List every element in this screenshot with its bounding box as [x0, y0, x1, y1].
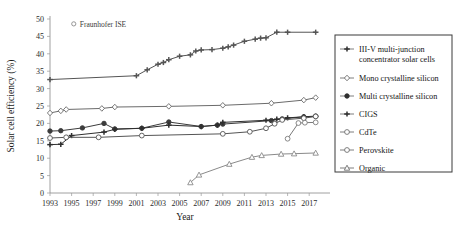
legend: III-V multi-junctionconcentrator solar c…	[335, 35, 452, 173]
marker-filled-circle	[102, 121, 106, 125]
series-3	[47, 114, 318, 147]
x-tick-label: 2007	[193, 199, 209, 208]
y-tick-label: 0	[40, 189, 44, 198]
x-axis-title: Year	[176, 212, 194, 222]
marker-open-circle	[264, 126, 269, 131]
marker-open-circle	[139, 133, 144, 138]
marker-filled-circle	[59, 129, 63, 133]
marker-open-circle	[272, 121, 277, 126]
marker-open-circle	[345, 130, 350, 135]
marker-open-circle	[64, 135, 69, 140]
marker-open-circle	[301, 116, 306, 121]
series-1	[47, 95, 318, 116]
y-tick-label: 20	[36, 119, 44, 128]
series-line	[288, 122, 316, 138]
y-tick-label: 25	[36, 102, 44, 111]
series-0	[47, 30, 318, 83]
y-tick-label: 15	[36, 137, 44, 146]
x-tick-label: 2005	[172, 199, 188, 208]
y-tick-label: 45	[36, 32, 44, 41]
legend-item-label: Organic	[359, 164, 386, 173]
marker-open-diamond	[166, 104, 171, 110]
marker-open-diamond	[301, 97, 306, 103]
marker-filled-circle	[48, 129, 52, 133]
y-tick-label: 10	[36, 154, 44, 163]
marker-open-circle	[313, 120, 318, 125]
marker-open-circle	[48, 136, 53, 141]
x-tick-label: 1997	[85, 199, 101, 208]
x-tick-label: 1993	[42, 199, 58, 208]
y-tick-label: 5	[40, 172, 44, 181]
marker-open-circle	[247, 129, 252, 134]
legend-item-label: Mono crystalline silicon	[359, 74, 439, 83]
series-line	[50, 32, 316, 79]
x-tick-label: 1999	[107, 199, 123, 208]
legend-item-label: CIGS	[359, 110, 378, 119]
marker-open-circle	[285, 136, 290, 141]
marker-open-circle	[280, 118, 285, 123]
marker-open-diamond	[47, 110, 52, 116]
marker-open-circle	[313, 114, 318, 119]
marker-open-diamond	[64, 107, 69, 113]
legend-item-label: Multi crystalline silicon	[359, 92, 437, 101]
x-tick-label: 2017	[301, 199, 317, 208]
marker-open-diamond	[313, 95, 318, 101]
annotation-fraunhofer-ise: Fraunhofer ISE	[72, 20, 127, 29]
annotation-label: Fraunhofer ISE	[80, 20, 127, 29]
open-circle-icon	[72, 22, 76, 26]
marker-open-circle	[302, 120, 307, 125]
x-tick-label: 1995	[64, 199, 80, 208]
y-tick-label: 40	[36, 50, 44, 59]
x-tick-label: 2003	[150, 199, 166, 208]
x-tick-label: 2001	[128, 199, 144, 208]
marker-filled-circle	[80, 126, 84, 130]
marker-open-circle	[296, 121, 301, 126]
legend-item-label: III-V multi-junction	[359, 45, 425, 54]
legend-item-label: CdTe	[359, 128, 377, 137]
solar-cell-efficiency-chart: 0510152025303540455019931995199719992001…	[0, 0, 472, 232]
marker-filled-circle	[345, 94, 349, 98]
x-tick-label: 2011	[237, 199, 253, 208]
y-tick-label: 30	[36, 85, 44, 94]
marker-open-circle	[220, 131, 225, 136]
series-line	[50, 98, 316, 113]
series-5	[285, 120, 318, 141]
y-tick-label: 50	[36, 15, 44, 24]
marker-open-circle	[96, 135, 101, 140]
marker-open-diamond	[99, 106, 104, 112]
legend-item-label-line2: concentrator solar cells	[359, 55, 435, 64]
marker-open-diamond	[269, 100, 274, 106]
series-line	[50, 116, 316, 144]
marker-open-diamond	[58, 108, 63, 114]
legend-item-label: Perovskite	[359, 146, 394, 155]
marker-open-circle	[345, 148, 350, 153]
x-tick-label: 2013	[258, 199, 274, 208]
x-tick-label: 2009	[215, 199, 231, 208]
x-tick-label: 2015	[280, 199, 296, 208]
y-tick-label: 35	[36, 67, 44, 76]
chart-canvas: 0510152025303540455019931995199719992001…	[0, 0, 472, 232]
series-6	[188, 150, 319, 185]
y-axis-title: Solar cell efficiency (%)	[6, 60, 17, 153]
marker-open-diamond	[112, 104, 117, 110]
marker-open-diamond	[220, 103, 225, 109]
